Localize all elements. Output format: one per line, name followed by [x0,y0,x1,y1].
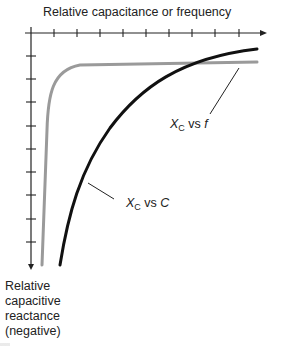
y-axis-arrow-icon [28,264,34,270]
label-xc-vs-c: XC vs C [125,196,170,212]
x-axis-arrow-icon [260,30,267,36]
curve-xc-vs-f [42,62,257,265]
y-axis-title-line: reactance [5,309,61,324]
x-axis-title: Relative capacitance or frequency [43,5,232,19]
y-axis-title: Relative capacitive reactance (negative) [5,279,61,339]
leader-xc-vs-c [88,183,114,199]
curve-xc-vs-c [60,49,257,265]
y-axis-title-line: Relative [5,279,61,294]
label-xc-vs-f: XC vs f [169,117,209,133]
y-axis-title-line: (negative) [5,324,61,339]
y-axis-title-line: capacitive [5,294,61,309]
leader-xc-vs-f [210,68,239,114]
